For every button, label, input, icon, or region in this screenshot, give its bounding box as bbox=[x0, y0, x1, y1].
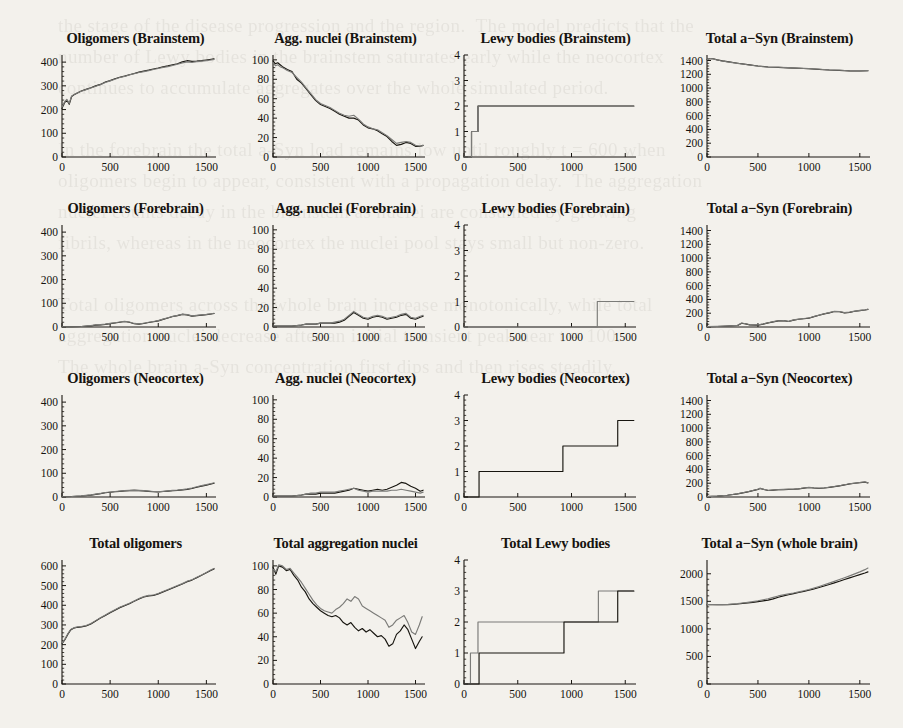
y-tick-label: 800 bbox=[686, 436, 704, 448]
y-tick-label: 0 bbox=[52, 678, 58, 690]
x-tick-label: 500 bbox=[749, 161, 767, 173]
series-line-run-1 bbox=[464, 302, 634, 328]
y-tick-label: 20 bbox=[258, 132, 270, 144]
y-tick-label: 3 bbox=[454, 245, 460, 257]
panel-title-total-aggregation-nuclei: Total aggregation nuclei bbox=[243, 535, 448, 552]
panel-title-total-oligomers: Total oligomers bbox=[28, 535, 243, 552]
y-tick-label: 100 bbox=[252, 560, 270, 572]
x-tick-label: 0 bbox=[461, 501, 467, 513]
x-tick-label: 0 bbox=[59, 331, 65, 343]
y-tick-label: 0 bbox=[263, 678, 269, 690]
y-tick-label: 60 bbox=[258, 263, 270, 275]
panel-title-oligomers-brainstem: Oligomers (Brainstem) bbox=[28, 30, 243, 47]
y-tick-label: 80 bbox=[258, 584, 270, 596]
x-tick-label: 1500 bbox=[848, 161, 871, 173]
y-tick-label: 1000 bbox=[680, 623, 703, 635]
y-tick-label: 1000 bbox=[680, 82, 703, 94]
x-tick-label: 500 bbox=[102, 501, 120, 513]
y-tick-label: 80 bbox=[258, 413, 270, 425]
figure-panel-grid: Oligomers (Brainstem)0100200300400050010… bbox=[0, 0, 903, 728]
x-tick-label: 1500 bbox=[614, 688, 637, 700]
x-tick-label: 500 bbox=[312, 161, 330, 173]
x-tick-label: 500 bbox=[509, 501, 527, 513]
chart-oligomers-brainstem: 0100200300400050010001500 bbox=[28, 49, 224, 177]
x-tick-label: 1500 bbox=[614, 331, 637, 343]
y-tick-label: 600 bbox=[41, 560, 59, 572]
y-tick-label: 300 bbox=[41, 619, 59, 631]
x-tick-label: 1000 bbox=[797, 688, 820, 700]
series-line-run-1 bbox=[464, 591, 634, 684]
axes-group: 0500100015002000050010001500 bbox=[680, 560, 872, 700]
x-tick-label: 1500 bbox=[404, 501, 427, 513]
x-tick-label: 500 bbox=[749, 331, 767, 343]
panel-title-oligomers-forebrain: Oligomers (Forebrain) bbox=[28, 200, 243, 217]
panel-agg-nuclei-forebrain: Agg. nuclei (Forebrain)02040608010005001… bbox=[243, 200, 448, 370]
panel-lewy-bodies-forebrain: Lewy bodies (Forebrain)01234050010001500 bbox=[448, 200, 663, 370]
series-line-run-2 bbox=[707, 309, 868, 326]
axes-group: 020406080100050010001500 bbox=[252, 224, 428, 343]
y-tick-label: 0 bbox=[454, 491, 460, 503]
y-tick-label: 1400 bbox=[680, 225, 703, 237]
y-tick-label: 200 bbox=[41, 444, 59, 456]
y-tick-label: 1400 bbox=[680, 55, 703, 67]
y-tick-label: 200 bbox=[41, 104, 59, 116]
y-tick-label: 500 bbox=[41, 580, 59, 592]
y-tick-label: 800 bbox=[686, 266, 704, 278]
y-tick-label: 40 bbox=[258, 282, 270, 294]
x-tick-label: 1500 bbox=[404, 331, 427, 343]
axes-group: 01234050010001500 bbox=[454, 389, 637, 513]
chart-total-lewy-bodies: 01234050010001500 bbox=[448, 554, 644, 704]
x-tick-label: 0 bbox=[270, 331, 276, 343]
x-tick-label: 500 bbox=[509, 688, 527, 700]
panel-title-agg-nuclei-neocortex: Agg. nuclei (Neocortex) bbox=[243, 370, 448, 387]
axes-group: 020406080100050010001500 bbox=[252, 394, 428, 513]
y-tick-label: 1200 bbox=[680, 408, 703, 420]
y-tick-label: 1000 bbox=[680, 252, 703, 264]
y-tick-label: 100 bbox=[41, 297, 59, 309]
y-tick-label: 400 bbox=[41, 396, 59, 408]
series-line-run-1 bbox=[707, 58, 868, 71]
x-tick-label: 500 bbox=[749, 688, 767, 700]
y-tick-label: 20 bbox=[258, 654, 270, 666]
series-line-run-2 bbox=[62, 568, 214, 643]
x-tick-label: 1500 bbox=[195, 688, 218, 700]
series-line-run-1 bbox=[62, 59, 214, 109]
chart-total-asyn-brainstem: 0200400600800100012001400050010001500 bbox=[663, 49, 878, 177]
y-tick-label: 20 bbox=[258, 472, 270, 484]
chart-lewy-bodies-forebrain: 01234050010001500 bbox=[448, 219, 644, 347]
x-tick-label: 0 bbox=[704, 501, 710, 513]
y-tick-label: 1000 bbox=[680, 422, 703, 434]
y-tick-label: 200 bbox=[41, 639, 59, 651]
axes-group: 0100200300400500600050010001500 bbox=[41, 560, 218, 700]
x-tick-label: 1000 bbox=[560, 331, 583, 343]
x-tick-label: 1000 bbox=[797, 501, 820, 513]
chart-total-asyn-whole-brain: 0500100015002000050010001500 bbox=[663, 554, 878, 704]
y-tick-label: 100 bbox=[252, 224, 270, 236]
y-tick-label: 1200 bbox=[680, 238, 703, 250]
x-tick-label: 0 bbox=[59, 501, 65, 513]
y-tick-label: 800 bbox=[686, 96, 704, 108]
series-line-run-1 bbox=[464, 421, 634, 498]
series-line-run-2 bbox=[273, 63, 423, 147]
x-tick-label: 1500 bbox=[848, 688, 871, 700]
x-tick-label: 1500 bbox=[195, 161, 218, 173]
panel-total-aggregation-nuclei: Total aggregation nuclei0204060801000500… bbox=[243, 535, 448, 723]
panel-total-oligomers: Total oligomers0100200300400500600050010… bbox=[28, 535, 243, 723]
series-line-run-1 bbox=[273, 61, 423, 146]
panel-title-total-asyn-brainstem: Total a−Syn (Brainstem) bbox=[663, 30, 896, 47]
chart-oligomers-forebrain: 0100200300400050010001500 bbox=[28, 219, 224, 347]
series-line-run-2 bbox=[707, 482, 868, 497]
x-tick-label: 0 bbox=[704, 331, 710, 343]
panel-total-asyn-neocortex: Total a−Syn (Neocortex)02004006008001000… bbox=[663, 370, 896, 535]
series-line-run-2 bbox=[62, 60, 214, 108]
panel-agg-nuclei-brainstem: Agg. nuclei (Brainstem)02040608010005001… bbox=[243, 30, 448, 200]
y-tick-label: 300 bbox=[41, 250, 59, 262]
x-tick-label: 1000 bbox=[147, 688, 170, 700]
y-tick-label: 40 bbox=[258, 452, 270, 464]
x-tick-label: 0 bbox=[59, 161, 65, 173]
y-tick-label: 2 bbox=[454, 440, 460, 452]
x-tick-label: 1500 bbox=[848, 331, 871, 343]
y-tick-label: 400 bbox=[686, 463, 704, 475]
panel-oligomers-forebrain: Oligomers (Forebrain)0100200300400050010… bbox=[28, 200, 243, 370]
panel-title-total-asyn-whole-brain: Total a−Syn (whole brain) bbox=[663, 535, 896, 552]
